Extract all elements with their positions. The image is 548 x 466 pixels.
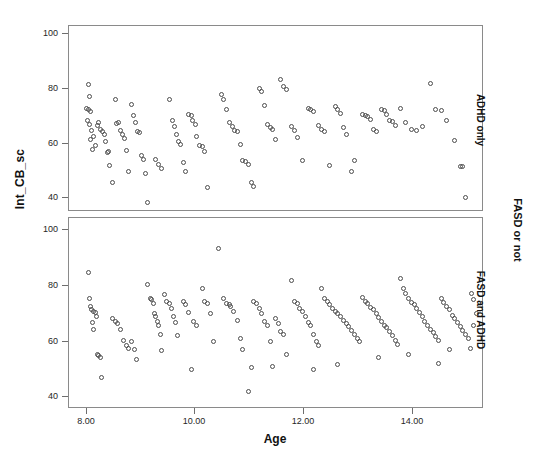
data-point <box>181 160 186 165</box>
data-point <box>319 286 324 291</box>
data-point <box>89 128 94 133</box>
data-point <box>414 128 419 133</box>
data-point <box>145 282 150 287</box>
data-point <box>194 134 199 139</box>
data-point <box>126 169 131 174</box>
data-point <box>224 107 229 112</box>
data-point <box>335 362 340 367</box>
data-point <box>143 171 148 176</box>
data-point <box>344 132 349 137</box>
x-tick-14 <box>412 408 413 414</box>
data-point <box>174 132 179 137</box>
data-point <box>276 321 281 326</box>
data-point <box>398 276 403 281</box>
data-point <box>102 132 107 137</box>
data-point <box>273 137 278 142</box>
data-point <box>466 336 471 341</box>
data-point <box>295 135 300 140</box>
data-point <box>374 129 379 134</box>
x-axis-title: Age <box>150 432 400 446</box>
data-point <box>327 163 332 168</box>
data-point <box>141 157 146 162</box>
data-point <box>126 346 131 351</box>
data-point <box>262 103 267 108</box>
data-point <box>468 346 473 351</box>
data-point <box>205 301 210 306</box>
data-point <box>447 307 452 312</box>
data-point <box>87 122 92 127</box>
y-tick-label-bottom-60: 60 <box>16 337 58 346</box>
data-points-adhd-only <box>69 26 482 210</box>
data-point <box>183 169 188 174</box>
data-point <box>93 143 98 148</box>
data-point <box>134 357 139 362</box>
data-point <box>231 309 236 314</box>
data-point <box>341 125 346 130</box>
data-point <box>228 304 233 309</box>
data-point <box>357 339 362 344</box>
data-point <box>281 332 286 337</box>
data-point <box>175 333 180 338</box>
data-point <box>284 87 289 92</box>
data-point <box>284 352 289 357</box>
data-point <box>171 314 176 319</box>
data-point <box>167 97 172 102</box>
data-point <box>409 127 414 132</box>
data-point <box>436 338 441 343</box>
data-point <box>131 113 136 118</box>
data-point <box>393 123 398 128</box>
data-point <box>338 111 343 116</box>
data-point <box>300 309 305 314</box>
data-point <box>300 158 305 163</box>
data-point <box>246 162 251 167</box>
data-point <box>398 106 403 111</box>
data-point <box>238 336 243 341</box>
data-point <box>137 130 142 135</box>
data-point <box>159 348 164 353</box>
data-point <box>133 120 138 125</box>
data-point <box>122 136 127 141</box>
data-point <box>172 124 177 129</box>
data-point <box>98 355 103 360</box>
y-tick-label-bottom-100: 100 <box>16 225 58 234</box>
data-point <box>452 138 457 143</box>
y-tick-label-top-40: 40 <box>16 193 58 202</box>
data-point <box>94 314 99 319</box>
data-point <box>132 347 137 352</box>
data-point <box>88 137 93 142</box>
data-point <box>169 306 174 311</box>
data-point <box>193 122 198 127</box>
data-point <box>238 142 243 147</box>
data-point <box>145 200 150 205</box>
data-point <box>270 127 275 132</box>
data-point <box>349 169 354 174</box>
data-point <box>311 109 316 114</box>
data-point <box>87 94 92 99</box>
x-tick-label-12: 12.00 <box>280 416 326 426</box>
data-point <box>436 361 441 366</box>
data-point <box>311 367 316 372</box>
data-point <box>183 302 188 307</box>
data-point <box>311 332 316 337</box>
data-point <box>86 270 91 275</box>
data-point <box>113 97 118 102</box>
y-tick-label-top-100: 100 <box>16 29 58 38</box>
y-tick-label-bottom-80: 80 <box>16 281 58 290</box>
data-point <box>376 355 381 360</box>
panel-label-adhd-only: ADHD only <box>475 60 486 180</box>
data-point <box>270 364 275 369</box>
data-point <box>110 180 115 185</box>
panel-adhd-only <box>68 25 483 211</box>
data-point <box>87 296 92 301</box>
data-point <box>221 97 226 102</box>
data-point <box>200 286 205 291</box>
scatter-figure: Int_CB_sc 100 80 60 40 100 80 60 40 8.00… <box>0 0 548 466</box>
data-point <box>249 365 254 370</box>
data-point <box>107 163 112 168</box>
data-point <box>178 142 183 147</box>
data-point <box>91 327 96 332</box>
data-point <box>211 339 216 344</box>
data-point <box>186 310 191 315</box>
x-tick-label-10: 10.00 <box>171 416 217 426</box>
data-point <box>156 323 161 328</box>
